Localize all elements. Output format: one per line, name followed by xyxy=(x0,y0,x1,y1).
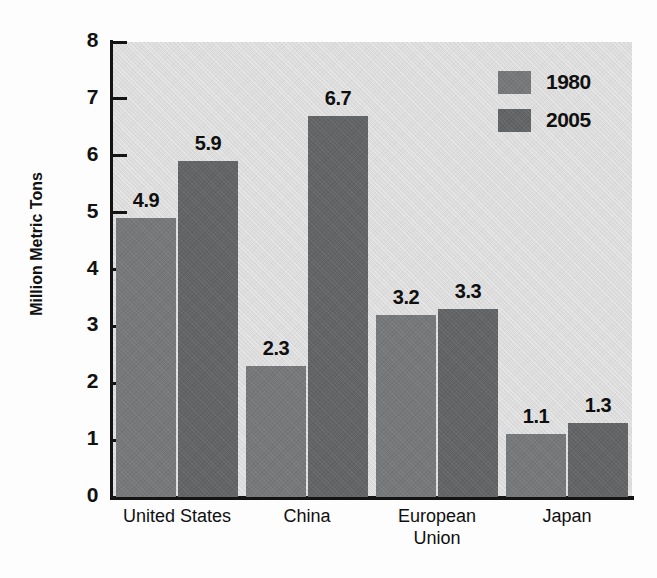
y-tick-label: 0 xyxy=(72,483,98,507)
legend-label: 1980 xyxy=(546,70,591,94)
bar-texture xyxy=(178,161,238,497)
y-tick-mark xyxy=(113,41,127,44)
bar-1980-european-union xyxy=(376,315,436,497)
bar-texture xyxy=(116,218,176,497)
y-tick-label: 8 xyxy=(72,28,98,52)
bar-2005-china xyxy=(308,116,368,497)
bar-texture xyxy=(506,434,566,497)
category-label-japan: Japan xyxy=(487,505,647,527)
bar-texture xyxy=(376,315,436,497)
y-tick-mark xyxy=(113,97,127,100)
bar-texture xyxy=(438,309,498,497)
legend-label: 2005 xyxy=(546,108,591,132)
legend-swatch xyxy=(498,109,531,132)
bar-1980-japan xyxy=(506,434,566,497)
y-tick-mark xyxy=(113,154,127,157)
bar-value-label: 1.3 xyxy=(560,394,636,417)
bar-texture xyxy=(246,366,306,497)
bar-2005-japan xyxy=(568,423,628,497)
legend-swatch-texture xyxy=(498,109,531,132)
bar-texture xyxy=(568,423,628,497)
legend-swatch-texture xyxy=(498,71,531,94)
y-tick-label: 6 xyxy=(72,142,98,166)
y-tick-label: 4 xyxy=(72,256,98,280)
bar-texture xyxy=(308,116,368,497)
legend-item-1980: 1980 xyxy=(498,66,591,98)
legend-item-2005: 2005 xyxy=(498,104,591,136)
legend: 19802005 xyxy=(498,66,591,142)
y-tick-label: 1 xyxy=(72,426,98,450)
y-axis-title: Million Metric Tons xyxy=(28,144,46,344)
bar-value-label: 2.3 xyxy=(238,337,314,360)
legend-swatch xyxy=(498,71,531,94)
bar-value-label: 5.9 xyxy=(170,132,246,155)
bar-chart: 876543210 Million Metric Tons 4.95.92.36… xyxy=(0,0,657,578)
bar-value-label: 4.9 xyxy=(108,189,184,212)
bar-value-label: 3.3 xyxy=(430,280,506,303)
bar-1980-united-states xyxy=(116,218,176,497)
bar-value-label: 6.7 xyxy=(300,87,376,110)
y-tick-label: 2 xyxy=(72,369,98,393)
bar-1980-china xyxy=(246,366,306,497)
bar-2005-united-states xyxy=(178,161,238,497)
y-tick-label: 7 xyxy=(72,85,98,109)
y-tick-label: 3 xyxy=(72,312,98,336)
bar-2005-european-union xyxy=(438,309,498,497)
y-tick-label: 5 xyxy=(72,199,98,223)
